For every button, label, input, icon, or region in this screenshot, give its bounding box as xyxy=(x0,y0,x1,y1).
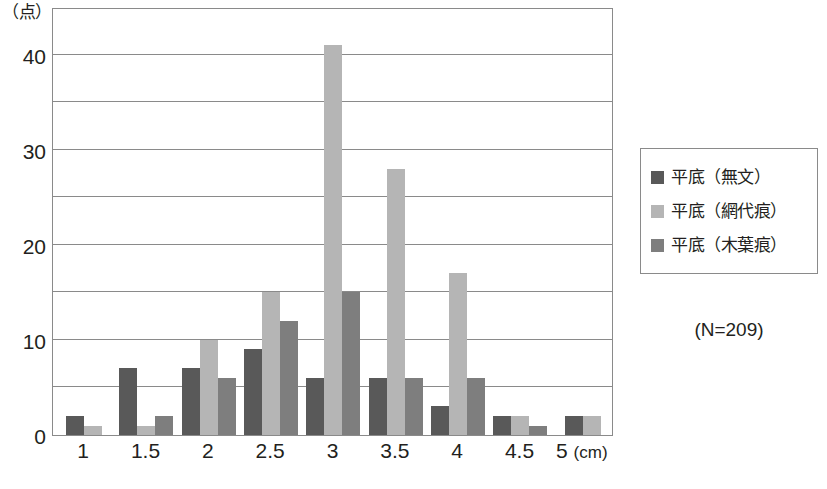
bar xyxy=(244,349,262,435)
y-axis-tick-labels: 010203040 xyxy=(0,8,46,435)
plot-area xyxy=(52,8,613,436)
bar xyxy=(467,378,485,435)
chart-legend: 平底（無文）平底（網代痕）平底（木葉痕） xyxy=(640,148,818,274)
bar xyxy=(565,416,583,435)
bar xyxy=(342,292,360,435)
bar-group xyxy=(115,9,177,435)
x-axis-tick-label: 4.5 xyxy=(505,440,534,461)
bar-group xyxy=(240,9,302,435)
bar xyxy=(137,426,155,436)
bar xyxy=(200,340,218,435)
bar xyxy=(431,406,449,435)
x-axis-tick-label: 1 xyxy=(77,440,89,461)
y-axis-tick-label: 10 xyxy=(0,330,46,351)
sample-size-annotation: (N=209) xyxy=(640,320,818,339)
y-axis-tick-label: 20 xyxy=(0,235,46,256)
bar xyxy=(449,273,467,435)
figure-caption xyxy=(72,478,772,489)
bar xyxy=(405,378,423,435)
bar xyxy=(493,416,511,435)
figure-root: （点） 010203040 11.522.533.544.55 (cm) 平底（… xyxy=(0,0,827,489)
bar xyxy=(369,378,387,435)
bar-group xyxy=(552,9,614,435)
bar xyxy=(306,378,324,435)
bar xyxy=(66,416,84,435)
x-axis-tick-label: 5 (cm) xyxy=(556,440,608,461)
legend-item-label: 平底（網代痕） xyxy=(671,203,787,220)
x-axis-unit-label: (cm) xyxy=(574,443,608,462)
x-axis-tick-label: 3 xyxy=(327,440,339,461)
y-axis-tick-label: 40 xyxy=(0,45,46,66)
bar xyxy=(387,169,405,435)
x-axis-tick-labels: 11.522.533.544.55 (cm) xyxy=(52,440,613,470)
bar xyxy=(262,292,280,435)
legend-swatch-icon xyxy=(651,171,664,184)
bar xyxy=(583,416,601,435)
bar xyxy=(511,416,529,435)
bar xyxy=(84,426,102,436)
x-axis-tick-label: 1.5 xyxy=(131,440,160,461)
legend-item: 平底（網代痕） xyxy=(651,194,809,228)
y-axis-tick-label: 30 xyxy=(0,140,46,161)
legend-swatch-icon xyxy=(651,205,664,218)
bar-group xyxy=(365,9,427,435)
bar-group xyxy=(178,9,240,435)
bar xyxy=(182,368,200,435)
legend-swatch-icon xyxy=(651,239,664,252)
bar xyxy=(324,45,342,435)
bar-groups xyxy=(53,9,612,435)
bar xyxy=(529,426,547,436)
x-axis-tick-label: 4 xyxy=(451,440,463,461)
legend-item: 平底（無文） xyxy=(651,160,809,194)
legend-item: 平底（木葉痕） xyxy=(651,228,809,262)
bar-group xyxy=(53,9,115,435)
bar-group xyxy=(427,9,489,435)
x-axis-tick-label: 2 xyxy=(202,440,214,461)
bar-group xyxy=(302,9,364,435)
y-axis-tick-label: 0 xyxy=(0,426,46,447)
x-axis-tick-label: 3.5 xyxy=(380,440,409,461)
bar xyxy=(218,378,236,435)
bar-group xyxy=(489,9,551,435)
bar xyxy=(280,321,298,435)
bar xyxy=(119,368,137,435)
bar xyxy=(155,416,173,435)
legend-item-label: 平底（無文） xyxy=(671,169,770,186)
x-axis-tick-label: 2.5 xyxy=(256,440,285,461)
legend-item-label: 平底（木葉痕） xyxy=(671,237,787,254)
